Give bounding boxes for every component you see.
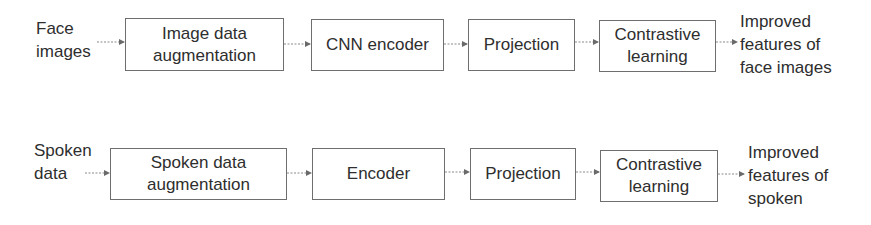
box-label-line: learning: [615, 46, 701, 68]
box-label-line: Projection: [485, 163, 561, 185]
box-contrastive-learning: Contrastive learning: [599, 20, 716, 72]
box-label-line: Image data: [153, 23, 256, 45]
output-label-spoken-features: Improved features of spoken: [748, 141, 828, 210]
input-label-face-images: Face images: [36, 17, 91, 63]
box-label-line: Projection: [484, 34, 560, 56]
output-label-line: Improved: [740, 10, 832, 33]
box-label-line: Spoken data: [147, 152, 250, 174]
box-label-line: Encoder: [347, 163, 410, 185]
box-label-line: learning: [616, 176, 702, 198]
box-label-line: augmentation: [147, 174, 250, 196]
input-label-line: images: [36, 40, 91, 63]
output-label-face-features: Improved features of face images: [740, 10, 832, 79]
box-contrastive-learning: Contrastive learning: [600, 150, 718, 202]
box-projection: Projection: [470, 148, 576, 200]
output-label-line: face images: [740, 56, 832, 79]
box-encoder: Encoder: [312, 148, 445, 200]
box-label-line: Contrastive: [615, 24, 701, 46]
box-projection: Projection: [468, 19, 575, 71]
box-spoken-data-augmentation: Spoken data augmentation: [110, 148, 287, 200]
box-label-line: CNN encoder: [326, 34, 429, 56]
input-label-line: Spoken: [34, 139, 92, 162]
output-label-line: features of: [740, 33, 832, 56]
input-label-spoken-data: Spoken data: [34, 139, 92, 185]
output-label-line: Improved: [748, 141, 828, 164]
box-label-line: augmentation: [153, 45, 256, 67]
box-label-line: Contrastive: [616, 154, 702, 176]
output-label-line: spoken: [748, 187, 828, 210]
box-image-data-augmentation: Image data augmentation: [125, 18, 284, 71]
input-label-line: Face: [36, 17, 91, 40]
input-label-line: data: [34, 162, 92, 185]
output-label-line: features of: [748, 164, 828, 187]
box-cnn-encoder: CNN encoder: [311, 19, 444, 71]
